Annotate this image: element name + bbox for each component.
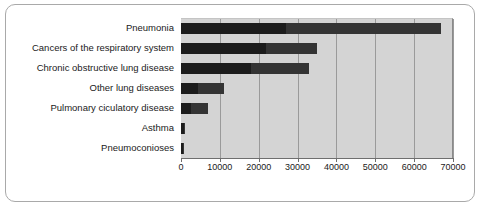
stacked-bar[interactable] xyxy=(181,43,317,54)
bar-segment-series-1 xyxy=(181,83,198,94)
bar-segment-series-2 xyxy=(286,23,441,34)
bar-segment-series-2 xyxy=(198,83,223,94)
stacked-bar[interactable] xyxy=(181,123,184,134)
x-tick-label: 20000 xyxy=(246,163,271,172)
bar-row xyxy=(181,98,452,118)
x-tick-label: 60000 xyxy=(402,163,427,172)
bar-segment-series-1 xyxy=(181,63,251,74)
category-label: Cancers of the respiratory system xyxy=(12,38,180,58)
plot-area xyxy=(181,18,453,158)
bar-segment-series-2 xyxy=(251,63,309,74)
stacked-bar[interactable] xyxy=(181,143,184,154)
bar-segment-series-2 xyxy=(183,143,184,154)
stacked-bar[interactable] xyxy=(181,103,208,114)
bar-row xyxy=(181,59,452,79)
category-label: Asthma xyxy=(12,118,180,138)
bar-row xyxy=(181,138,452,158)
category-label: Pneumonia xyxy=(12,18,180,38)
stacked-bar[interactable] xyxy=(181,23,441,34)
bar-row xyxy=(181,118,452,138)
category-label: Pneumoconioses xyxy=(12,138,180,158)
bar-segment-series-1 xyxy=(181,43,266,54)
bar-row xyxy=(181,19,452,39)
horizontal-stacked-bar-chart: Pneumonia Cancers of the respiratory sys… xyxy=(6,5,476,203)
x-tick-label: 10000 xyxy=(207,163,232,172)
stacked-bar[interactable] xyxy=(181,83,224,94)
bar-segment-series-2 xyxy=(266,43,317,54)
x-tick-label: 30000 xyxy=(285,163,310,172)
bar-row xyxy=(181,39,452,59)
category-label: Pulmonary ciculatory disease xyxy=(12,98,180,118)
category-axis-labels: Pneumonia Cancers of the respiratory sys… xyxy=(12,18,180,158)
bar-segment-series-2 xyxy=(184,123,185,134)
x-axis-tick-labels: 010000200003000040000500006000070000 xyxy=(181,163,453,177)
bar-segment-series-1 xyxy=(181,23,286,34)
x-tick-label: 70000 xyxy=(440,163,465,172)
bar-segment-series-1 xyxy=(181,103,191,114)
bar-series-group xyxy=(181,19,452,158)
bar-row xyxy=(181,79,452,99)
x-tick-label: 40000 xyxy=(324,163,349,172)
x-tick-label: 0 xyxy=(178,163,183,172)
category-label: Chronic obstructive lung disease xyxy=(12,58,180,78)
category-label: Other lung diseases xyxy=(12,78,180,98)
stacked-bar[interactable] xyxy=(181,63,309,74)
x-tick-label: 50000 xyxy=(363,163,388,172)
chart-figure-frame: Pneumonia Cancers of the respiratory sys… xyxy=(5,4,475,202)
bar-segment-series-2 xyxy=(191,103,208,114)
gridline xyxy=(453,19,454,158)
